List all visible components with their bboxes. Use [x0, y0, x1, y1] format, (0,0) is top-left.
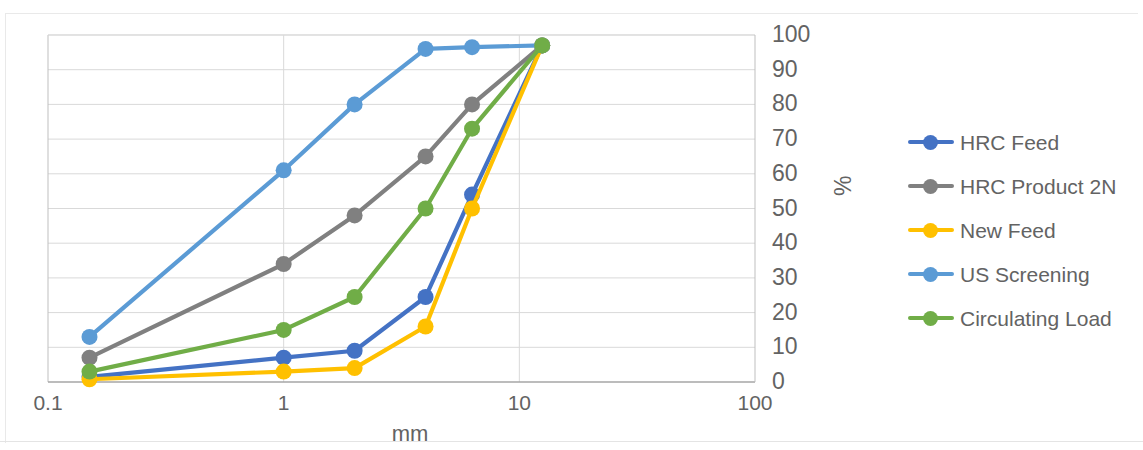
x-axis-tick-label: 100: [715, 392, 795, 413]
data-point: [418, 318, 434, 334]
legend-label: Circulating Load: [960, 308, 1112, 329]
legend-marker-icon: [908, 177, 954, 195]
legend-label: New Feed: [960, 220, 1056, 241]
y-axis-tick-label: 100: [772, 23, 826, 46]
data-point: [464, 96, 480, 112]
chart-legend: HRC FeedHRC Product 2NNew FeedUS Screeni…: [908, 120, 1140, 340]
data-point: [418, 41, 434, 57]
data-point: [418, 289, 434, 305]
data-point: [347, 360, 363, 376]
data-point: [347, 96, 363, 112]
legend-item: HRC Feed: [908, 120, 1140, 164]
data-point: [418, 148, 434, 164]
data-point: [347, 343, 363, 359]
y-axis-tick-label: 60: [772, 162, 826, 185]
data-point: [464, 201, 480, 217]
y-axis-tick-label: 20: [772, 301, 826, 324]
data-point: [276, 350, 292, 366]
chart-container: 0102030405060708090100 0.1110100 mm % HR…: [0, 0, 1143, 450]
legend-item: US Screening: [908, 252, 1140, 296]
data-point: [347, 289, 363, 305]
data-point: [276, 256, 292, 272]
data-point: [464, 39, 480, 55]
series-new-feed: [81, 37, 550, 387]
data-point: [276, 364, 292, 380]
data-point: [418, 201, 434, 217]
series-hrc-feed: [81, 37, 550, 384]
legend-marker-icon: [908, 265, 954, 283]
x-axis-tick-label: 0.1: [8, 392, 88, 413]
legend-dot: [923, 311, 938, 326]
legend-item: New Feed: [908, 208, 1140, 252]
legend-label: HRC Feed: [960, 132, 1059, 153]
y-axis-tick-label: 80: [772, 92, 826, 115]
legend-item: Circulating Load: [908, 296, 1140, 340]
gridlines: [48, 35, 755, 382]
data-point: [534, 37, 550, 53]
legend-item: HRC Product 2N: [908, 164, 1140, 208]
legend-marker-icon: [908, 221, 954, 239]
data-point: [276, 322, 292, 338]
y-axis-tick-label: 30: [772, 266, 826, 289]
x-axis-tick-label: 10: [479, 392, 559, 413]
legend-dot: [923, 179, 938, 194]
legend-label: HRC Product 2N: [960, 176, 1116, 197]
legend-marker-icon: [908, 309, 954, 327]
y-axis-title: %: [830, 176, 857, 196]
y-axis-tick-label: 10: [772, 335, 826, 358]
data-point: [347, 207, 363, 223]
legend-dot: [923, 223, 938, 238]
legend-label: US Screening: [960, 264, 1090, 285]
y-axis-tick-label: 40: [772, 231, 826, 254]
legend-dot: [923, 135, 938, 150]
data-point: [276, 162, 292, 178]
x-axis-tick-label: 1: [244, 392, 324, 413]
legend-dot: [923, 267, 938, 282]
data-series-layer: [81, 37, 550, 387]
data-point: [81, 350, 97, 366]
data-point: [81, 329, 97, 345]
y-axis-tick-label: 50: [772, 197, 826, 220]
x-axis-title: mm: [350, 421, 470, 447]
y-axis-tick-label: 70: [772, 127, 826, 150]
data-point: [81, 364, 97, 380]
data-point: [464, 121, 480, 137]
y-axis-tick-label: 90: [772, 58, 826, 81]
y-axis-tick-label: 0: [772, 370, 826, 393]
legend-marker-icon: [908, 133, 954, 151]
